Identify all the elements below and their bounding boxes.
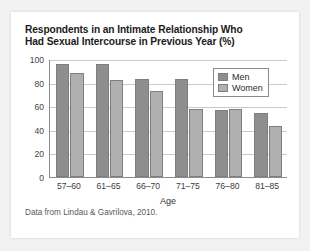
bar-group [175,60,203,177]
x-tick-label: 71–75 [176,181,200,191]
legend-label-men: Men [232,72,250,82]
y-tick-label: 60 [34,102,44,112]
legend-swatch-men-icon [218,73,228,81]
x-axis-tick-labels: 57–6061–6566–7071–7576–8081–85 [49,181,287,194]
x-tick-label: 66–70 [136,181,160,191]
bar-men-81–85 [254,113,268,177]
y-tick-label: 100 [30,55,44,65]
title-line-1: Respondents in an Intimate Relationship … [25,24,283,36]
bar-men-71–75 [175,79,189,177]
page-title: Respondents in an Intimate Relationship … [25,24,283,49]
bar-men-57–60 [56,64,70,177]
bar-women-57–60 [70,73,84,177]
figure-card: Respondents in an Intimate Relationship … [11,12,299,238]
y-tick-label: 80 [34,79,44,89]
x-tick-label: 61–65 [97,181,121,191]
bar-men-76–80 [215,110,229,177]
y-tick-label: 20 [34,149,44,159]
y-tick-label: 40 [34,126,44,136]
title-line-2: Had Sexual Intercourse in Previous Year … [25,36,283,48]
bar-men-66–70 [135,79,149,177]
legend-item-women: Women [218,82,263,93]
bar-women-76–80 [229,109,243,177]
source-note: Data from Lindau & Gavrilova, 2010. [25,208,157,217]
bar-men-61–65 [96,64,110,177]
plot-area: Men Women [49,60,287,178]
legend-label-women: Women [232,83,263,93]
chart-plot-region: 020406080100 Men Women 57–6061–6566–7071… [25,60,287,200]
y-axis-tick-labels: 020406080100 [25,60,47,178]
bar-women-71–75 [189,109,203,177]
y-tick-label: 0 [39,173,44,183]
x-tick-label: 57–60 [57,181,81,191]
bar-women-81–85 [269,126,283,177]
x-tick-label: 81–85 [255,181,279,191]
x-axis-title: Age [49,196,287,206]
chart-legend: Men Women [213,68,269,97]
x-tick-label: 76–80 [216,181,240,191]
legend-item-men: Men [218,71,263,82]
bar-women-66–70 [150,91,164,177]
bar-women-61–65 [110,80,124,177]
legend-swatch-women-icon [218,84,228,92]
bar-group [96,60,124,177]
bar-group [135,60,163,177]
bar-group [56,60,84,177]
